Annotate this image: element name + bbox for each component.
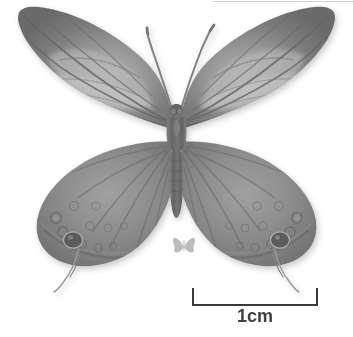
abdomen bbox=[170, 148, 184, 218]
butterfly-silhouette-glyph bbox=[171, 233, 197, 259]
scale-bar: 1cm bbox=[192, 288, 320, 333]
right-forewing bbox=[181, 5, 340, 128]
left-forewing bbox=[13, 5, 172, 128]
left-hindwing bbox=[37, 142, 174, 292]
specimen-plate: 1cm bbox=[0, 0, 353, 337]
scale-bar-label: 1cm bbox=[192, 305, 318, 327]
butterfly-specimen-image bbox=[0, 0, 353, 337]
right-eyespot-large bbox=[271, 232, 290, 248]
scale-bar-rule bbox=[192, 288, 318, 306]
right-hindwing bbox=[180, 142, 317, 292]
left-eyespot-large bbox=[64, 232, 83, 248]
